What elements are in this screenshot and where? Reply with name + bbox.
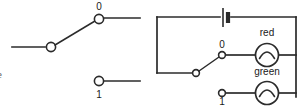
right-lamp-selector-circuit: 0 red 1 green xyxy=(157,8,296,106)
green-lamp-label: green xyxy=(254,66,280,77)
clipped-edge-text: e xyxy=(0,68,2,80)
switch-blade[interactable] xyxy=(55,21,95,45)
pole-terminal-node[interactable] xyxy=(46,42,55,51)
throw-0-label: 0 xyxy=(96,1,102,12)
battery-cell-icon xyxy=(223,8,228,27)
left-spdt-switch-symbol: 0 1 xyxy=(12,1,140,100)
throw-0-terminal-node[interactable] xyxy=(94,14,103,23)
circuit-switch-blade[interactable] xyxy=(199,57,219,71)
schematic-screenshot: e 0 1 xyxy=(0,0,306,106)
red-lamp-label: red xyxy=(260,27,274,38)
throw-1-terminal-node[interactable] xyxy=(94,76,103,85)
circuit-throw-0-label: 0 xyxy=(219,39,225,50)
green-lamp-envelope xyxy=(256,82,279,105)
circuit-throw-0-terminal-node[interactable] xyxy=(219,52,226,59)
circuit-throw-1-label: 1 xyxy=(219,96,225,106)
green-lamp-icon xyxy=(256,82,279,105)
schematic-canvas: 0 1 xyxy=(0,0,306,106)
red-lamp-icon xyxy=(256,44,279,67)
throw-1-label: 1 xyxy=(96,89,102,100)
red-lamp-envelope xyxy=(256,44,279,67)
